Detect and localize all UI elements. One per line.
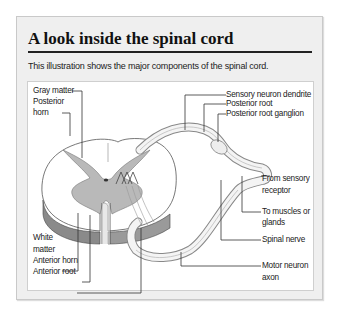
label-posterior-horn-line2: horn [33, 108, 49, 119]
label-motor-neuron-axon-line2: axon [262, 273, 279, 284]
label-posterior-horn-line1: Posterior [33, 97, 64, 108]
label-to-muscles-line1: To muscles or [262, 207, 310, 218]
label-gray-matter: Gray matter [33, 86, 74, 97]
label-white-matter-line2: matter [33, 245, 55, 256]
label-motor-neuron-axon-line1: Motor neuron [262, 261, 308, 272]
label-spinal-nerve: Spinal nerve [262, 235, 305, 246]
label-white-matter-line1: White [33, 233, 53, 244]
label-anterior-horn: Anterior horn [33, 256, 78, 267]
label-anterior-root: Anterior root [33, 267, 75, 278]
label-from-sensory-receptor-line2: receptor [262, 186, 290, 197]
label-to-muscles-line2: glands [262, 218, 285, 229]
label-posterior-root-ganglion: Posterior root ganglion [226, 109, 304, 120]
label-posterior-root: Posterior root [226, 99, 272, 110]
label-from-sensory-receptor-line1: From sensory [262, 174, 310, 185]
